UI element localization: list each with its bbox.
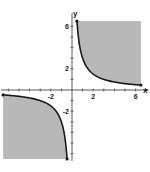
x-axis-label: x (143, 86, 148, 95)
y-axis-label: y (73, 9, 78, 18)
x-tick-label: 2 (91, 93, 95, 100)
x-tick-label: 6 (134, 93, 138, 100)
curve-arrow-end (66, 157, 69, 160)
shaded-region-q3 (3, 95, 67, 159)
y-tick-label: -2 (63, 108, 69, 115)
curve-arrow-end (1, 93, 4, 96)
shaded-region-q1 (77, 21, 141, 85)
curve-arrow-end (75, 20, 78, 23)
y-tick-label: 6 (65, 23, 69, 30)
x-tick-label: -2 (48, 93, 54, 100)
y-tick-label: 2 (65, 65, 69, 72)
hyperbola-chart: x y -22662-2 (0, 0, 150, 172)
